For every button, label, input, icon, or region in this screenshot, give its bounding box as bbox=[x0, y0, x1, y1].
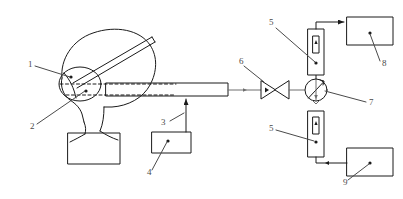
detector-cell-upper bbox=[308, 29, 324, 75]
lower-cell-anchor-dot bbox=[314, 140, 317, 143]
flow-valve bbox=[261, 81, 289, 99]
control-box-4 bbox=[152, 132, 191, 153]
label-7: 7 bbox=[369, 97, 374, 107]
optical-switch bbox=[305, 79, 327, 104]
label-5-lower: 5 bbox=[269, 123, 274, 133]
shoulder-block bbox=[68, 131, 120, 164]
schematic-diagram: 1 2 3 4 5 6 7 5 8 9 bbox=[0, 0, 403, 199]
detector-cell-lower bbox=[308, 111, 324, 157]
label-group: 1 2 3 4 5 6 7 5 8 9 bbox=[28, 17, 387, 187]
leader-lines bbox=[35, 28, 380, 180]
label-1: 1 bbox=[28, 59, 33, 69]
label-3: 3 bbox=[161, 117, 166, 127]
upper-cell-to-box8 bbox=[316, 22, 344, 29]
probe-to-valve-line bbox=[228, 88, 261, 92]
leader-1 bbox=[35, 66, 70, 77]
flow-path-dashed bbox=[60, 84, 176, 95]
label-2: 2 bbox=[30, 121, 35, 131]
label-5-upper: 5 bbox=[269, 17, 274, 27]
sampling-probe-tube bbox=[106, 83, 228, 96]
leader-6 bbox=[244, 66, 264, 82]
mask-strap bbox=[73, 37, 155, 88]
label-4: 4 bbox=[147, 167, 152, 177]
leader-3 bbox=[170, 113, 184, 121]
analyzer-box-8 bbox=[347, 17, 393, 45]
leader-4 bbox=[152, 142, 167, 170]
leader-8 bbox=[370, 34, 380, 61]
diagram-canvas: 1 2 3 4 5 6 7 5 8 9 bbox=[0, 0, 403, 199]
leader-7 bbox=[325, 91, 366, 102]
box9-to-lower-cell bbox=[316, 157, 347, 165]
label-8: 8 bbox=[382, 58, 387, 68]
label-6: 6 bbox=[239, 56, 244, 66]
leader-9 bbox=[348, 164, 369, 180]
label-9: 9 bbox=[343, 177, 348, 187]
